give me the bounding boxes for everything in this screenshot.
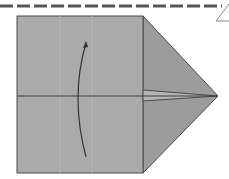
corner-mark-icon (216, 4, 229, 21)
origami-diagram (0, 0, 229, 179)
square-base (17, 16, 143, 173)
